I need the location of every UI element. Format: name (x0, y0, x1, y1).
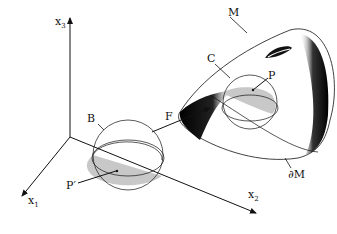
x1-axis (22, 137, 70, 196)
label-C: C (207, 52, 215, 65)
label-x3: x3 (55, 15, 66, 30)
label-P-prime: P′ (66, 179, 76, 192)
label-M: M (228, 6, 239, 19)
diagram-canvas: x3 x1 x2 M ∂M C P B P′ F (0, 0, 337, 234)
label-F: F (165, 110, 173, 123)
label-boundary-dM: ∂M (288, 168, 305, 181)
label-B: B (87, 112, 95, 125)
label-x2: x2 (248, 188, 259, 203)
ball-B (78, 120, 164, 190)
M-leader (230, 17, 247, 33)
label-P: P (268, 69, 276, 82)
label-x1: x1 (28, 194, 39, 209)
